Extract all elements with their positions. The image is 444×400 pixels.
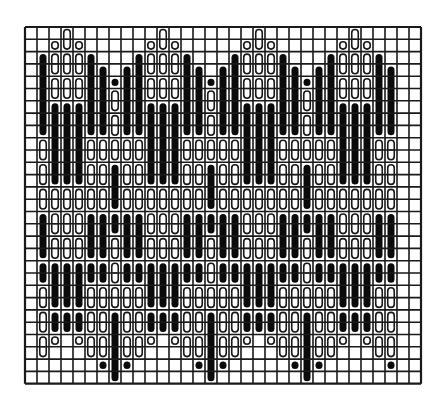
outline-stitch bbox=[340, 42, 347, 49]
solid-stitch bbox=[328, 54, 335, 135]
outline-stitch bbox=[244, 337, 251, 344]
outline-stitch bbox=[244, 42, 251, 49]
outline-stitch bbox=[340, 337, 347, 344]
outline-stitch bbox=[172, 337, 179, 344]
solid-stitch bbox=[160, 103, 167, 184]
solid-stitch bbox=[340, 103, 347, 184]
chart-canvas bbox=[0, 0, 444, 400]
outline-stitch bbox=[268, 42, 275, 49]
solid-stitch bbox=[304, 79, 311, 86]
solid-stitch bbox=[124, 362, 131, 369]
outline-stitch bbox=[52, 337, 59, 344]
solid-stitch bbox=[280, 54, 287, 135]
solid-stitch bbox=[208, 79, 215, 86]
solid-stitch bbox=[220, 362, 227, 369]
outline-stitch bbox=[364, 337, 371, 344]
outline-stitch bbox=[268, 337, 275, 344]
outline-stitch bbox=[364, 42, 371, 49]
solid-stitch bbox=[316, 362, 323, 369]
solid-stitch bbox=[244, 103, 251, 184]
solid-stitch bbox=[196, 362, 203, 369]
solid-stitch bbox=[88, 54, 95, 135]
solid-stitch bbox=[184, 54, 191, 135]
solid-stitch bbox=[172, 103, 179, 184]
solid-stitch bbox=[352, 103, 359, 184]
solid-stitch bbox=[364, 103, 371, 184]
solid-stitch bbox=[292, 362, 299, 369]
solid-stitch bbox=[64, 103, 71, 184]
solid-stitch bbox=[136, 54, 143, 135]
outline-stitch bbox=[148, 42, 155, 49]
solid-stitch bbox=[52, 103, 59, 184]
solid-stitch bbox=[100, 362, 107, 369]
outline-stitch bbox=[52, 42, 59, 49]
solid-stitch bbox=[256, 103, 263, 184]
solid-stitch bbox=[148, 103, 155, 184]
outline-stitch bbox=[76, 42, 83, 49]
solid-stitch bbox=[376, 54, 383, 135]
solid-stitch bbox=[76, 103, 83, 184]
outline-stitch bbox=[172, 42, 179, 49]
solid-stitch bbox=[268, 103, 275, 184]
solid-stitch bbox=[232, 54, 239, 135]
solid-stitch bbox=[388, 362, 395, 369]
outline-stitch bbox=[148, 337, 155, 344]
solid-stitch bbox=[40, 54, 47, 135]
solid-stitch bbox=[112, 79, 119, 86]
outline-stitch bbox=[76, 337, 83, 344]
